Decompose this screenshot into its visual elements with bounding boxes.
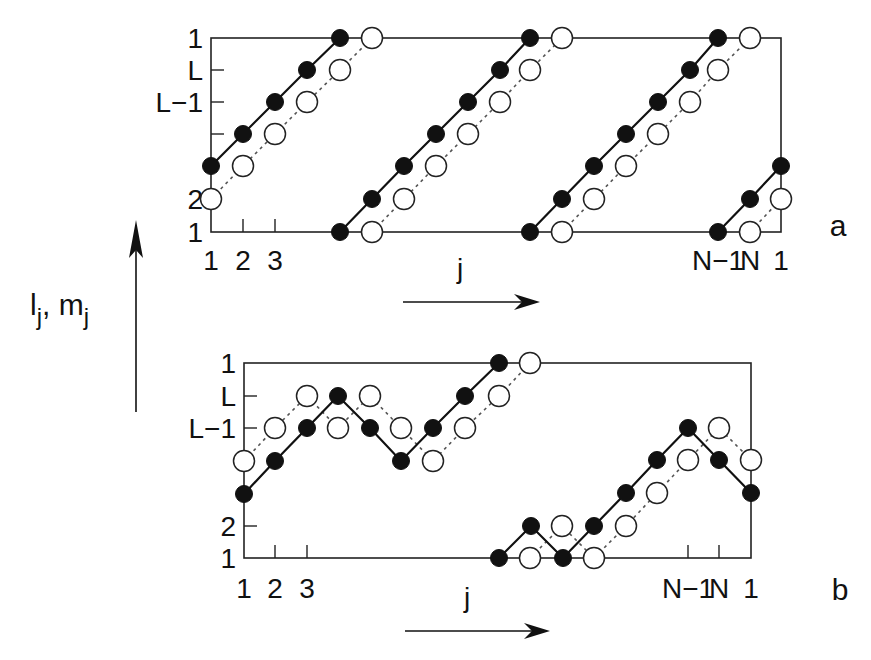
x-tick-label: 1 — [743, 573, 759, 604]
filled-circle-icon — [522, 30, 539, 47]
open-circle-icon — [647, 483, 668, 504]
open-circle-icon — [362, 222, 383, 243]
filled-circle-icon — [555, 550, 572, 567]
x-tick-label: 2 — [235, 245, 251, 276]
open-circle-icon — [552, 222, 573, 243]
filled-circle-icon — [267, 94, 284, 111]
open-circle-icon — [490, 92, 511, 113]
x-tick-label: 1 — [236, 573, 252, 604]
x-tick-label: 1 — [203, 245, 219, 276]
open-circle-icon — [265, 124, 286, 145]
filled-circle-icon — [650, 94, 667, 111]
open-circle-icon — [328, 418, 349, 439]
filled-circle-icon — [299, 62, 316, 79]
filled-circle-icon — [618, 485, 635, 502]
panel-a: 1LL−121123N−1N1ja — [156, 23, 847, 310]
filled-circle-icon — [203, 158, 220, 175]
open-circle-icon — [616, 516, 637, 537]
filled-circle-icon — [460, 94, 477, 111]
filled-circle-icon — [492, 62, 509, 79]
open-circle-icon — [489, 386, 510, 407]
y-axis-label: lj, mj — [30, 288, 89, 330]
filled-circle-icon — [299, 420, 316, 437]
lattice-path-figure: 1LL−121123N−1N1ja 1LL−121123N−1N1jb lj, … — [0, 0, 871, 660]
filled-circle-icon — [396, 158, 413, 175]
y-tick-label: L−1 — [189, 413, 237, 444]
filled-circle-icon — [586, 158, 603, 175]
vertical-arrow — [129, 220, 143, 412]
x-tick-label: 1 — [773, 245, 789, 276]
y-tick-label: L−1 — [156, 87, 204, 118]
x-axis-label: j — [456, 253, 463, 284]
filled-circle-icon — [332, 224, 349, 241]
open-circle-icon — [426, 156, 447, 177]
open-circle-icon — [297, 386, 318, 407]
filled-circle-icon — [742, 191, 759, 208]
filled-circle-icon — [491, 550, 508, 567]
open-circle-icon — [708, 60, 729, 81]
x-axis-label: j — [463, 582, 470, 613]
y-tick-label: L — [187, 55, 203, 86]
filled-circle-icon — [682, 62, 699, 79]
filled-circle-icon — [330, 388, 347, 405]
open-circle-icon — [391, 418, 412, 439]
filled-circle-icon — [457, 388, 474, 405]
x-tick-label: 3 — [267, 245, 283, 276]
open-circle-icon — [520, 353, 541, 374]
filled-circle-icon — [773, 158, 790, 175]
open-circle-icon — [740, 222, 761, 243]
open-circle-icon — [297, 92, 318, 113]
open-circle-icon — [584, 548, 605, 569]
y-tick-label: 1 — [187, 217, 203, 248]
x-tick-label: N — [709, 573, 729, 604]
y-tick-label: 2 — [220, 511, 236, 542]
open-circle-icon — [648, 124, 669, 145]
open-circle-icon — [771, 189, 792, 210]
filled-circle-icon — [364, 191, 381, 208]
x-tick-label: 3 — [299, 573, 315, 604]
panel-label: a — [830, 209, 847, 242]
panel-label: b — [832, 573, 849, 606]
filled-circle-icon — [362, 420, 379, 437]
open-circle-icon — [678, 450, 699, 471]
open-circle-icon — [234, 451, 255, 472]
filled-circle-icon — [680, 420, 697, 437]
filled-circle-icon — [522, 224, 539, 241]
open-circle-icon — [201, 189, 222, 210]
open-circle-icon — [362, 28, 383, 49]
filled-circle-icon — [649, 452, 666, 469]
open-circle-icon — [458, 124, 479, 145]
filled-circle-icon — [710, 30, 727, 47]
open-circle-icon — [552, 28, 573, 49]
filled-circle-icon — [267, 453, 284, 470]
y-tick-label: 1 — [220, 348, 236, 379]
filled-circle-icon — [491, 355, 508, 372]
filled-circle-icon — [428, 126, 445, 143]
y-tick-label: L — [220, 381, 236, 412]
x-tick-label: N−1 — [692, 245, 744, 276]
x-tick-label: N−1 — [662, 573, 714, 604]
open-circle-icon — [265, 418, 286, 439]
open-circle-icon — [552, 516, 573, 537]
open-circle-icon — [520, 548, 541, 569]
open-circle-icon — [423, 451, 444, 472]
open-circle-icon — [520, 60, 541, 81]
filled-circle-icon — [393, 453, 410, 470]
open-circle-icon — [616, 156, 637, 177]
filled-circle-icon — [618, 126, 635, 143]
open-circle-icon — [233, 156, 254, 177]
x-tick-label: N — [740, 245, 760, 276]
panel-b: 1LL−121123N−1N1jb — [189, 348, 849, 639]
filled-circle-icon — [554, 191, 571, 208]
x-tick-label: 2 — [267, 573, 283, 604]
filled-circle-icon — [586, 518, 603, 535]
filled-circle-icon — [711, 452, 728, 469]
open-circle-icon — [740, 28, 761, 49]
filled-circle-icon — [425, 420, 442, 437]
open-circle-icon — [741, 450, 762, 471]
y-tick-label: 1 — [220, 543, 236, 574]
open-circle-icon — [360, 386, 381, 407]
y-tick-label: 1 — [187, 23, 203, 54]
open-path-line — [530, 428, 751, 558]
filled-circle-icon — [235, 126, 252, 143]
